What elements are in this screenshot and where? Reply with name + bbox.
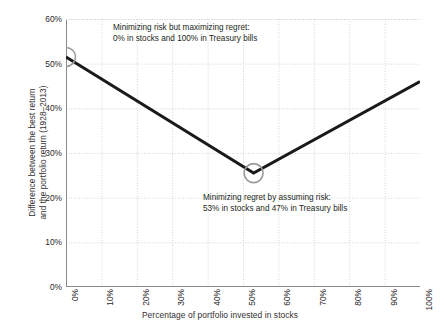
x-tick-label: 40% — [212, 289, 222, 306]
x-tick-label: 100% — [424, 289, 434, 310]
gridlines — [66, 19, 420, 287]
x-tick-label: 20% — [141, 289, 151, 306]
x-tick-label: 80% — [353, 289, 363, 306]
x-tick-label: 0% — [70, 289, 80, 301]
y-tick-label: 20% — [28, 193, 62, 203]
annotation-minimizing-regret-line1: Minimizing regret by assuming risk: — [203, 192, 347, 203]
x-tick-label: 60% — [282, 289, 292, 306]
x-tick-label: 50% — [247, 289, 257, 306]
annotation-minimizing-risk: Minimizing risk but maximizing regret: 0… — [113, 22, 257, 44]
annotation-minimizing-regret: Minimizing regret by assuming risk: 53% … — [203, 192, 347, 214]
y-tick-label: 60% — [28, 14, 62, 24]
regret-line-chart: Difference between the best return and t… — [0, 0, 440, 332]
y-tick-label: 10% — [28, 237, 62, 247]
annotation-minimizing-regret-line2: 53% in stocks and 47% in Treasury bills — [203, 203, 347, 214]
x-tick-label: 30% — [176, 289, 186, 306]
x-axis-title: Percentage of portfolio invested in stoc… — [0, 310, 440, 320]
plot-area — [66, 19, 420, 287]
annotation-minimizing-risk-line2: 0% in stocks and 100% in Treasury bills — [113, 33, 257, 44]
annotation-minimizing-risk-line1: Minimizing risk but maximizing regret: — [113, 22, 257, 33]
y-tick-label: 50% — [28, 59, 62, 69]
y-axis-tick-labels: 0%10%20%30%40%50%60% — [24, 0, 62, 332]
plot-svg — [66, 19, 420, 287]
y-tick-label: 30% — [28, 148, 62, 158]
x-tick-label: 70% — [318, 289, 328, 306]
y-tick-label: 40% — [28, 103, 62, 113]
x-tick-label: 10% — [105, 289, 115, 306]
x-tick-label: 90% — [389, 289, 399, 306]
y-tick-label: 0% — [28, 282, 62, 292]
